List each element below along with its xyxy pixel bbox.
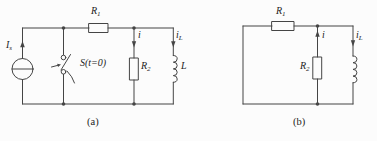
switch-contact-bottom: [61, 70, 66, 75]
inductor-coil-b: [353, 56, 357, 83]
node-dot: [132, 26, 136, 30]
switch-motion-arc: [67, 71, 75, 83]
current-il-label-b: iL: [356, 30, 363, 42]
resistor-r2-label-a: R2: [141, 61, 151, 73]
caption-a: (a): [87, 117, 99, 128]
schematic-drawing: [0, 0, 377, 141]
node-dot: [316, 102, 320, 106]
source-current-label: Is: [6, 40, 12, 52]
circuit-figure: Is R1 S(t=0) i R2 iL L (a) R1 i iL R2 (b…: [0, 0, 377, 141]
node-dot: [62, 102, 66, 106]
current-i-arrowhead-b: [315, 31, 319, 37]
switch-contact-top: [61, 55, 66, 60]
current-i-arrowhead-a: [132, 41, 136, 47]
resistor-r1-body-b: [272, 22, 294, 31]
current-i-label-b: i: [322, 30, 325, 40]
current-il-arrowhead-b: [351, 40, 355, 46]
resistor-r1-label-a: R1: [91, 6, 101, 18]
resistor-r2-body-a: [130, 58, 139, 80]
resistor-r1-body-a: [89, 24, 108, 33]
inductor-coil-a: [173, 56, 177, 83]
resistor-r2-body-b: [313, 57, 322, 79]
resistor-r2-label-b: R2: [300, 61, 310, 73]
switch-label: S(t=0): [80, 58, 106, 68]
switch-actuator-line: [52, 65, 59, 67]
inductor-l-label-a: L: [181, 61, 187, 71]
caption-b: (b): [293, 117, 305, 128]
resistor-r1-label-b: R1: [276, 6, 286, 18]
source-current-arrowhead: [20, 41, 25, 47]
node-dot: [132, 102, 136, 106]
node-dot: [62, 26, 66, 30]
current-il-arrowhead-a: [171, 41, 175, 47]
node-dot: [316, 24, 320, 28]
current-i-label-a: i: [138, 30, 141, 40]
current-il-label-a: iL: [176, 30, 183, 42]
switch-actuator-arrowhead: [57, 64, 61, 67]
